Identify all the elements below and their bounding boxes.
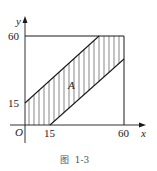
y-axis-label: y [15, 15, 21, 27]
lower-boundary-line [50, 59, 124, 125]
geometry-figure: y 60 15 O 15 60 x A 图 1-3 [0, 0, 157, 171]
y-axis-arrow-icon [23, 16, 28, 23]
y-tick-15: 15 [8, 97, 20, 109]
region-label: A [67, 79, 75, 91]
x-tick-60: 60 [118, 127, 130, 139]
origin-label: O [15, 126, 23, 138]
figure-caption: 图 1-3 [60, 155, 89, 165]
x-axis-label: x [140, 127, 146, 139]
y-tick-60: 60 [8, 30, 20, 42]
x-tick-15: 15 [44, 127, 56, 139]
y-axis [23, 16, 28, 143]
upper-boundary-line [25, 36, 99, 103]
